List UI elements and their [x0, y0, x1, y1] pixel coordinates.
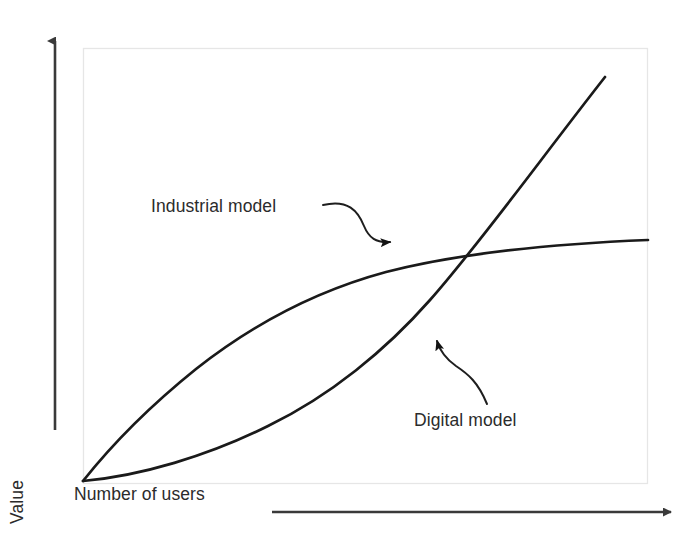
- digital-model-label: Digital model: [414, 410, 516, 430]
- x-axis-label: Number of users: [74, 484, 205, 504]
- curved-arrow-to-industrial-curve: [323, 203, 390, 242]
- industrial-model-curve: [83, 240, 648, 481]
- chart-figure: Industrial model Digital model Number of…: [0, 0, 685, 551]
- industrial-model-label: Industrial model: [151, 196, 276, 216]
- y-axis-label: Value: [7, 480, 27, 524]
- plot-area-border: [84, 49, 648, 484]
- digital-model-curve: [83, 77, 605, 481]
- curved-arrow-to-digital-curve: [437, 341, 487, 404]
- chart-canvas: [0, 0, 685, 551]
